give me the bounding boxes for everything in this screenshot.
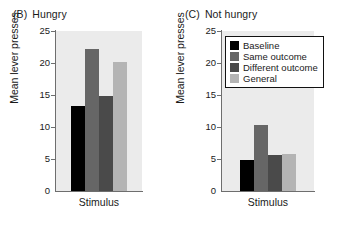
panel-title-text: Hungry [32, 8, 66, 20]
legend-swatch-icon [230, 41, 239, 50]
legend-item: General [230, 73, 318, 84]
y-tick-mark [51, 31, 56, 32]
y-tick-mark [51, 159, 56, 160]
legend-item: Baseline [230, 40, 318, 51]
bar-baseline [71, 106, 85, 191]
y-tick-label: 10 [10, 122, 50, 132]
y-tick-mark [51, 63, 56, 64]
panel-title-text: Not hungry [205, 8, 257, 20]
y-tick-label: 20 [10, 58, 50, 68]
y-tick-mark [51, 95, 56, 96]
y-tick-mark [51, 127, 56, 128]
legend-label: Baseline [243, 41, 279, 51]
y-tick-label: 0 [10, 186, 50, 196]
x-axis-label: Stimulus [221, 196, 315, 208]
bar-same-outcome [254, 125, 268, 191]
panel-tag: (C) [185, 8, 200, 20]
y-axis-line [221, 30, 222, 192]
legend-item: Different outcome [230, 62, 318, 73]
bar-general [113, 62, 127, 191]
y-tick-label: 15 [10, 90, 50, 100]
y-tick-label: 20 [176, 58, 216, 68]
y-tick-mark [217, 95, 222, 96]
panel-title-not-hungry: (C)Not hungry [185, 8, 257, 20]
legend-label: Different outcome [243, 63, 318, 73]
x-axis-label: Stimulus [55, 196, 143, 208]
bar-different-outcome [268, 155, 282, 191]
bar-different-outcome [99, 96, 113, 191]
y-tick-label: 5 [10, 154, 50, 164]
panel-hungry: (B)Hungry Mean lever presses Stimulus 05… [0, 0, 172, 225]
y-tick-label: 25 [176, 26, 216, 36]
chart-legend: BaselineSame outcomeDifferent outcomeGen… [225, 36, 324, 88]
y-tick-label: 5 [176, 154, 216, 164]
y-tick-mark [217, 63, 222, 64]
legend-label: Same outcome [243, 52, 307, 62]
bar-same-outcome [85, 49, 99, 191]
legend-label: General [243, 74, 277, 84]
y-tick-label: 10 [176, 122, 216, 132]
y-tick-mark [217, 31, 222, 32]
y-tick-label: 25 [10, 26, 50, 36]
y-tick-label: 0 [176, 186, 216, 196]
panel-title-hungry: (B)Hungry [13, 8, 67, 20]
legend-item: Same outcome [230, 51, 318, 62]
legend-swatch-icon [230, 74, 239, 83]
panel-not-hungry: (C)Not hungry Mean lever presses Stimulu… [172, 0, 344, 225]
bar-baseline [240, 160, 254, 191]
y-tick-label: 15 [176, 90, 216, 100]
legend-swatch-icon [230, 63, 239, 72]
figure-bar-charts: (B)Hungry Mean lever presses Stimulus 05… [0, 0, 344, 225]
y-axis-line [55, 30, 56, 192]
y-tick-mark [217, 159, 222, 160]
y-tick-mark [217, 127, 222, 128]
x-axis-line [55, 191, 143, 192]
bar-general [282, 154, 296, 191]
legend-swatch-icon [230, 52, 239, 61]
x-axis-line [221, 191, 315, 192]
